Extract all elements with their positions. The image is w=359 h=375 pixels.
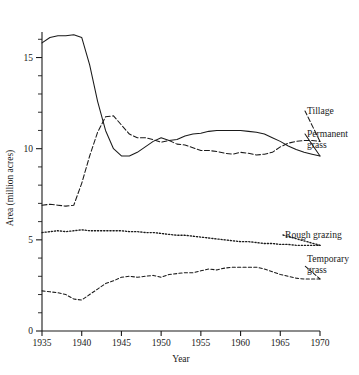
y-tick-label: 10 <box>24 144 34 154</box>
y-tick-label: 5 <box>28 235 33 245</box>
series-label-permanent-grass: grass <box>307 139 327 150</box>
x-axis-title: Year <box>172 354 190 364</box>
series-label-tillage: Tillage <box>307 105 334 116</box>
data-series-group <box>42 35 320 300</box>
y-tick-label: 0 <box>28 326 33 336</box>
chart-figure: 051015 19351940194519501955196019651970 … <box>0 0 359 375</box>
x-axis-ticks: 19351940194519501955196019651970 <box>33 331 330 348</box>
series-line-tillage <box>42 116 320 206</box>
x-tick-label: 1955 <box>191 338 210 348</box>
series-label-temporary-grass: Temporary <box>307 253 349 264</box>
x-tick-label: 1935 <box>33 338 52 348</box>
series-label-temporary-grass: grass <box>307 264 327 275</box>
y-tick-label: 15 <box>24 53 34 63</box>
x-tick-label: 1940 <box>72 338 91 348</box>
series-label-permanent-grass: Permanent <box>307 128 348 139</box>
series-line-rough-grazing <box>42 230 320 246</box>
series-annotations-group: TillagePermanentgrassRough grazingTempor… <box>283 105 349 279</box>
y-axis-ticks: 051015 <box>24 39 43 336</box>
series-label-rough-grazing: Rough grazing <box>285 229 342 240</box>
x-tick-label: 1945 <box>112 338 131 348</box>
axes-group <box>42 32 320 331</box>
y-axis-title: Area (million acres) <box>5 150 16 227</box>
line-chart-plot: 051015 19351940194519501955196019651970 … <box>0 0 359 375</box>
x-tick-label: 1965 <box>271 338 290 348</box>
x-tick-label: 1970 <box>311 338 330 348</box>
x-tick-label: 1960 <box>231 338 250 348</box>
series-line-temporary-grass <box>42 267 320 300</box>
series-line-permanent-grass <box>42 35 320 156</box>
x-tick-label: 1950 <box>152 338 171 348</box>
